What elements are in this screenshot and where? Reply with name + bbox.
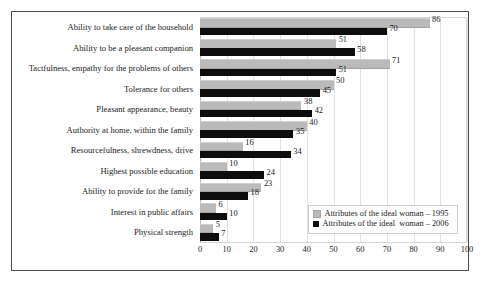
x-tick-label: 30	[276, 245, 284, 254]
legend-swatch-icon	[313, 210, 321, 218]
bar-2006	[200, 151, 291, 159]
x-tick-label: 70	[383, 245, 391, 254]
legend-label: Attributes of the ideal woman – 1995	[325, 209, 449, 220]
figure-frame: Ability to take care of the householdAbi…	[11, 11, 469, 271]
gridline-100	[467, 18, 468, 242]
value-label-2006: 10	[229, 209, 237, 218]
bar-row: 8670	[200, 17, 467, 38]
bar-row: 3842	[200, 99, 467, 120]
value-label-1995: 86	[432, 15, 440, 24]
value-label-1995: 10	[229, 159, 237, 168]
legend-swatch-icon	[313, 221, 319, 227]
value-label-1995: 38	[304, 97, 312, 106]
x-tick-label: 60	[356, 245, 364, 254]
bar-1995	[200, 121, 307, 131]
bar-2006	[200, 130, 293, 138]
x-tick-label: 10	[223, 245, 231, 254]
bar-1995	[200, 39, 336, 49]
bar-2006	[200, 89, 320, 97]
category-label: Pleasant appearance, beauty	[12, 99, 197, 120]
category-label: Authority at home, within the family	[12, 120, 197, 141]
bar-2006	[200, 69, 336, 77]
value-label-1995: 16	[245, 138, 253, 147]
value-label-2006: 70	[389, 24, 397, 33]
x-tick-label: 80	[409, 245, 417, 254]
bar-row: 5045	[200, 79, 467, 100]
category-label: Ability to provide for the family	[12, 181, 197, 202]
bar-1995	[200, 142, 243, 152]
value-label-1995: 71	[392, 56, 400, 65]
bar-row: 1634	[200, 140, 467, 161]
x-tick-label: 0	[198, 245, 202, 254]
category-label: Ability to be a pleasant companion	[12, 38, 197, 59]
bar-1995	[200, 224, 213, 234]
category-label: Highest possible education	[12, 161, 197, 182]
value-label-2006: 42	[315, 106, 323, 115]
value-label-1995: 5	[216, 220, 220, 229]
bar-1995	[200, 162, 227, 172]
x-axis-ticks: 0102030405060708090100	[200, 245, 467, 259]
value-label-1995: 23	[264, 179, 272, 188]
bar-2006	[200, 171, 264, 179]
x-tick-label: 50	[329, 245, 337, 254]
value-label-1995: 51	[339, 35, 347, 44]
bar-2006	[200, 28, 387, 36]
x-tick-label: 40	[303, 245, 311, 254]
category-label: Physical strength	[12, 222, 197, 243]
value-label-2006: 58	[357, 45, 365, 54]
category-label: Ability to take care of the household	[12, 17, 197, 38]
bar-1995	[200, 101, 301, 111]
value-label-1995: 6	[219, 200, 223, 209]
bar-2006	[200, 213, 227, 221]
bar-2006	[200, 110, 312, 118]
bar-2006	[200, 233, 219, 241]
bar-2006	[200, 48, 355, 56]
bar-row: 1024	[200, 161, 467, 182]
category-label: Tactfulness, empathy for the problems of…	[12, 58, 197, 79]
x-tick-label: 20	[249, 245, 257, 254]
category-axis-labels: Ability to take care of the householdAbi…	[12, 17, 197, 243]
value-label-1995: 50	[336, 76, 344, 85]
x-tick-label: 90	[436, 245, 444, 254]
category-label: Interest in public affairs	[12, 202, 197, 223]
bar-row: 5158	[200, 38, 467, 59]
value-label-2006: 34	[293, 147, 301, 156]
bar-chart: Ability to take care of the householdAbi…	[12, 12, 468, 270]
value-label-2006: 18	[251, 188, 259, 197]
x-tick-label: 100	[461, 245, 474, 254]
bar-row: 7151	[200, 58, 467, 79]
value-label-2006: 7	[221, 229, 225, 238]
legend-label: Attributes of the ideal woman – 2006	[323, 219, 449, 230]
value-label-2006: 35	[296, 127, 304, 136]
bar-row: 4035	[200, 120, 467, 141]
bar-1995	[200, 80, 334, 90]
value-label-2006: 24	[267, 168, 275, 177]
legend-entry: Attributes of the ideal woman – 1995	[313, 209, 453, 220]
value-label-1995: 40	[309, 118, 317, 127]
value-label-2006: 45	[323, 86, 331, 95]
bar-row: 2318	[200, 181, 467, 202]
category-label: Resourcefulness, shrewdness, drive	[12, 140, 197, 161]
category-label: Tolerance for others	[12, 79, 197, 100]
chart-legend: Attributes of the ideal woman – 1995Attr…	[308, 205, 458, 234]
bar-2006	[200, 192, 248, 200]
bar-1995	[200, 59, 390, 69]
value-label-2006: 51	[339, 65, 347, 74]
legend-entry: Attributes of the ideal woman – 2006	[313, 219, 453, 230]
bar-1995	[200, 203, 216, 213]
